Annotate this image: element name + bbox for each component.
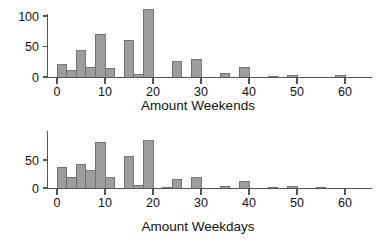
x-axis-tick-label: 40 — [242, 85, 256, 99]
histogram-bar — [239, 182, 249, 188]
histogram-bar — [287, 187, 297, 188]
histogram-bar — [67, 71, 77, 77]
weekends-histogram-panel: 050100 0102030405060 Amount Weekends — [0, 0, 381, 121]
histogram-bar — [86, 67, 96, 77]
histogram-bar — [191, 59, 201, 77]
histogram-bar — [105, 178, 115, 188]
x-axis-tick-label: 50 — [290, 196, 304, 210]
histogram-bar — [172, 179, 182, 188]
histogram-bar — [143, 141, 153, 188]
x-axis-tick-label: 0 — [54, 85, 61, 99]
weekends-y-axis: 050100 — [18, 10, 47, 85]
histogram-bar — [239, 67, 249, 77]
y-axis-tick-label: 100 — [18, 10, 39, 24]
weekdays-x-axis: 0102030405060 — [48, 189, 373, 211]
x-axis-tick-label: 20 — [146, 196, 160, 210]
histogram-bar — [95, 142, 105, 188]
x-axis-tick-label: 50 — [290, 85, 304, 99]
histogram-bar — [76, 51, 86, 77]
histogram-bar — [134, 75, 144, 77]
histogram-bar — [124, 157, 134, 188]
x-axis-tick-label: 10 — [98, 196, 112, 210]
weekdays-x-axis-title: Amount Weekdays — [141, 219, 254, 234]
y-axis-tick-label: 0 — [32, 71, 39, 85]
x-axis-tick-label: 0 — [54, 196, 61, 210]
histogram-bar — [86, 171, 96, 188]
weekends-x-axis: 0102030405060 — [48, 78, 373, 100]
histogram-bar — [105, 68, 115, 77]
histogram-bar — [134, 185, 144, 188]
histogram-bar — [76, 164, 86, 188]
x-axis-tick-label: 30 — [194, 196, 208, 210]
weekdays-histogram-panel: 050 0102030405060 Amount Weekdays — [0, 118, 381, 242]
histogram-bar — [220, 186, 230, 188]
weekdays-y-axis: 050 — [25, 131, 47, 196]
histogram-bar — [57, 167, 67, 188]
histogram-bar — [287, 76, 297, 77]
x-axis-tick-label: 10 — [98, 85, 112, 99]
weekends-bars — [57, 10, 345, 77]
histogram-bar — [172, 62, 182, 77]
histogram-bar — [57, 65, 67, 77]
y-axis-tick-label: 0 — [32, 182, 39, 196]
weekends-x-axis-title: Amount Weekends — [141, 98, 255, 113]
histogram-bar — [143, 10, 153, 77]
x-axis-tick-label: 20 — [146, 85, 160, 99]
histogram-bar — [220, 73, 230, 77]
x-axis-tick-label: 60 — [338, 85, 352, 99]
y-axis-tick-label: 50 — [25, 40, 39, 54]
histogram-bar — [95, 34, 105, 77]
y-axis-tick-label: 50 — [25, 154, 39, 168]
histogram-bar — [67, 177, 77, 188]
histogram-bar — [124, 40, 134, 77]
x-axis-tick-label: 30 — [194, 85, 208, 99]
x-axis-tick-label: 60 — [338, 196, 352, 210]
weekends-histogram-svg: 050100 0102030405060 Amount Weekends — [0, 0, 381, 121]
histogram-bar — [191, 178, 201, 188]
histogram-bar — [335, 76, 345, 77]
x-axis-tick-label: 40 — [242, 196, 256, 210]
weekdays-histogram-svg: 050 0102030405060 Amount Weekdays — [0, 118, 381, 242]
weekdays-bars — [57, 141, 326, 188]
